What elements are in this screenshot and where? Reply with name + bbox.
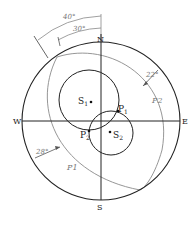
intersection-p2-dot: [88, 130, 91, 133]
dip-label-p2: 22°: [145, 71, 158, 79]
compass-west: W: [13, 117, 22, 126]
angle-arc-30: 30°: [58, 25, 101, 46]
s1-center-dot: [90, 101, 93, 104]
angle-label-40: 40°: [62, 13, 75, 21]
label-s2: S2: [113, 130, 123, 141]
dip-marker-p1: 28°: [35, 146, 60, 158]
label-great-circle-p2: P2: [151, 96, 162, 105]
small-circle-s2: [89, 111, 133, 155]
angle-label-30: 30°: [73, 25, 85, 33]
compass-south: S: [97, 203, 102, 212]
label-s1: S1: [78, 96, 88, 107]
label-great-circle-p1: P1: [66, 163, 77, 172]
label-intersection-p1: P1: [118, 104, 128, 115]
s2-center-dot: [109, 131, 112, 134]
compass-north: N: [97, 35, 104, 44]
stereonet-diagram: 40° 30° 22° 28° P2 P1 N S W E S1 S2 P: [0, 0, 195, 225]
compass-east: E: [182, 117, 188, 126]
dip-label-p1: 28°: [35, 148, 48, 156]
dip-marker-p2: 22°: [143, 70, 158, 86]
great-circle-p1: [47, 57, 140, 190]
